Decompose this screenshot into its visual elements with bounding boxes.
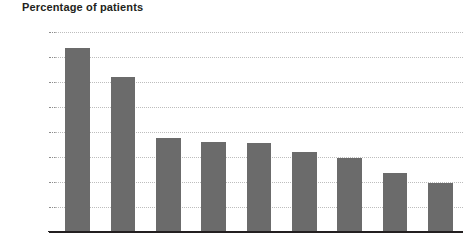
bar[interactable]: [337, 158, 362, 233]
plot-area: 0%5%10%15%20%25%30%35%40%: [55, 32, 463, 232]
bar[interactable]: [428, 183, 453, 232]
bar-chart-figure: Percentage of patients 0%5%10%15%20%25%3…: [0, 0, 465, 243]
bar[interactable]: [201, 142, 226, 232]
bar[interactable]: [383, 173, 408, 232]
chart-title: Percentage of patients: [22, 1, 143, 13]
bar[interactable]: [156, 138, 181, 232]
bar[interactable]: [65, 48, 90, 232]
bar[interactable]: [292, 152, 317, 232]
gridline-0pct: [55, 232, 463, 233]
x-axis-line: [48, 231, 463, 232]
bar[interactable]: [247, 143, 272, 233]
y-tick-mark: [49, 232, 55, 233]
bar[interactable]: [111, 77, 136, 232]
bars-layer: [55, 32, 463, 232]
